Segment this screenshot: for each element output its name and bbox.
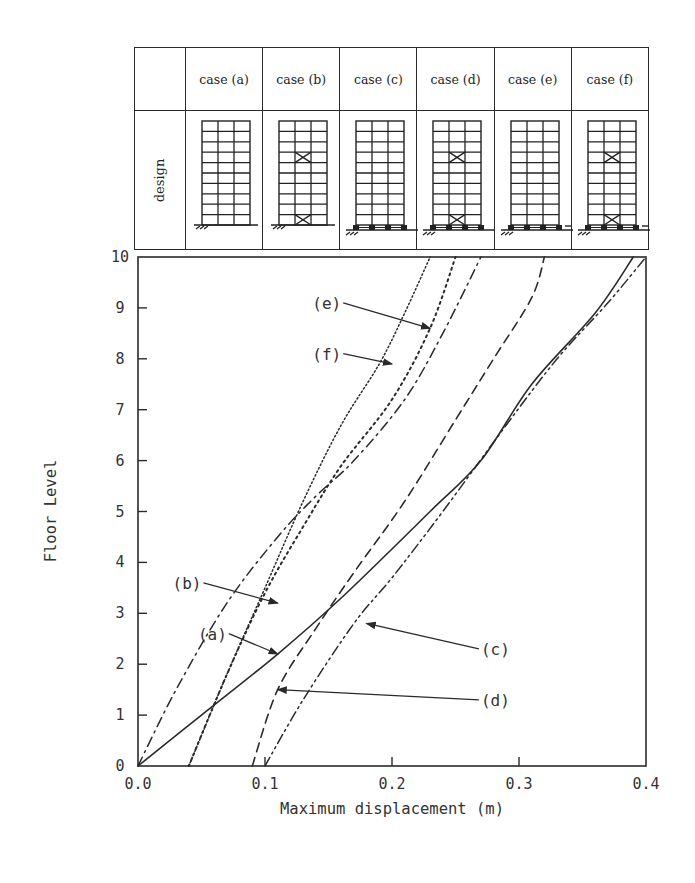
annotation-arrow [229,634,278,654]
x-axis: 0.00.10.20.30.4 [124,757,659,793]
annotation-arrow [343,303,430,328]
annotation-label-e: (e) [312,294,341,313]
y-tick-label: 5 [115,503,124,521]
annotation-label-d: (d) [481,691,510,710]
y-tick-label: 1 [115,706,124,724]
annotation-label-b: (b) [173,574,202,593]
annotation-arrow [367,623,479,648]
series-line-d [252,257,544,766]
x-tick-label: 0.1 [251,775,278,793]
annotation-arrow [278,690,479,700]
curve-annotations: (a)(b)(c)(d)(e)(f) [173,294,510,710]
series-lines [138,257,646,766]
y-tick-label: 4 [115,553,124,571]
y-tick-label: 6 [115,452,124,470]
series-line-e [189,257,456,766]
annotation-label-f: (f) [312,345,341,364]
plot-frame [138,257,646,766]
y-axis-title: Floor Level [42,460,60,563]
annotation-label-c: (c) [481,640,510,659]
annotation-label-a: (a) [198,625,227,644]
x-tick-label: 0.4 [632,775,659,793]
y-tick-label: 2 [115,655,124,673]
y-tick-label: 8 [115,350,124,368]
y-tick-label: 0 [115,757,124,775]
y-tick-label: 3 [115,604,124,622]
x-tick-label: 0.2 [378,775,405,793]
y-tick-label: 7 [115,401,124,419]
x-tick-label: 0.0 [124,775,151,793]
displacement-chart: 012345678910 0.00.10.20.30.4 (a)(b)(c)(d… [0,0,695,883]
x-axis-title: Maximum displacement (m) [280,800,504,818]
y-tick-label: 10 [111,248,129,266]
series-line-a [138,257,633,766]
y-axis: 012345678910 [111,248,147,775]
series-line-c [265,257,646,766]
x-tick-label: 0.3 [505,775,532,793]
y-tick-label: 9 [115,299,124,317]
